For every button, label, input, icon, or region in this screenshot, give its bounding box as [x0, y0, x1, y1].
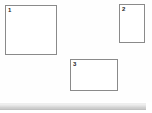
horizontal-scrollbar-thumb[interactable]	[0, 103, 146, 110]
app-root: 1 2 3	[0, 0, 152, 113]
horizontal-scrollbar-track[interactable]	[0, 102, 152, 113]
canvas-area[interactable]: 1 2 3	[0, 0, 152, 102]
box-3-label: 3	[73, 61, 76, 68]
box-2[interactable]: 2	[119, 4, 145, 43]
box-3[interactable]: 3	[70, 59, 118, 91]
box-1[interactable]: 1	[5, 5, 57, 55]
box-1-label: 1	[8, 7, 11, 14]
box-2-label: 2	[122, 6, 125, 13]
